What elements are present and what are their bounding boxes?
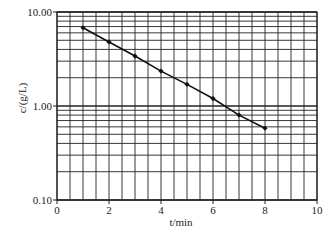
x-tick-label: 0 [54, 204, 60, 216]
x-tick-label: 2 [106, 204, 112, 216]
x-tick-label: 4 [158, 204, 164, 216]
x-axis-ticks: 0246810 [54, 200, 323, 216]
x-tick-label: 8 [262, 204, 268, 216]
y-tick-label: 1.00 [33, 100, 53, 112]
y-tick-label: 0.10 [33, 194, 53, 206]
chart: 0.101.0010.00 0246810 t/min c/(g/L) [0, 0, 332, 242]
grid-lines [57, 12, 317, 200]
x-axis-label: t/min [169, 216, 193, 228]
x-tick-label: 10 [312, 204, 324, 216]
y-axis-label: c/(g/L) [16, 82, 29, 113]
y-axis-ticks: 0.101.0010.00 [27, 6, 57, 206]
x-tick-label: 6 [210, 204, 216, 216]
y-tick-label: 10.00 [27, 6, 52, 18]
